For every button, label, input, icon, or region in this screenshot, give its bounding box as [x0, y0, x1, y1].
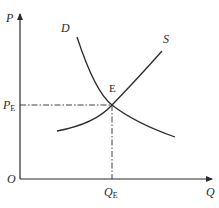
- equilibrium-quantity-main: Q: [104, 185, 113, 199]
- origin-label: O: [7, 172, 16, 186]
- supply-label: S: [163, 32, 169, 46]
- y-axis-label: P: [5, 11, 14, 25]
- equilibrium-quantity-sub: E: [113, 191, 118, 200]
- equilibrium-price-label: PE: [2, 98, 15, 113]
- equilibrium-label: E: [109, 82, 116, 94]
- supply-demand-diagram: P Q O D S E PE QE: [0, 0, 219, 208]
- demand-label: D: [60, 21, 70, 35]
- equilibrium-price-sub: E: [10, 104, 15, 113]
- equilibrium-quantity-label: QE: [104, 185, 118, 200]
- x-axis-label: Q: [206, 185, 215, 199]
